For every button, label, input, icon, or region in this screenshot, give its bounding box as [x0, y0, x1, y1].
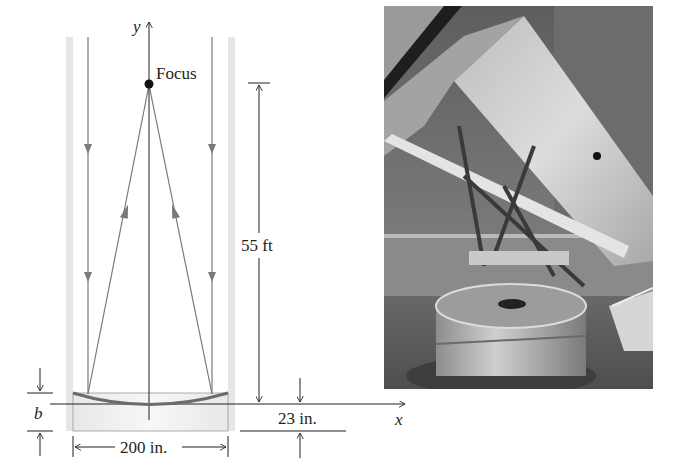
mirror-center-hole	[498, 299, 526, 309]
reflected-rays	[88, 85, 212, 394]
depth-label: b	[34, 404, 43, 423]
focal-length-label: 55 ft	[241, 236, 273, 255]
focus-point	[145, 80, 154, 89]
ray-arrowheads-down	[84, 144, 216, 282]
tube-wall-right	[228, 37, 235, 431]
tube-port	[593, 152, 601, 160]
yoke-ring	[469, 251, 569, 265]
y-axis-label: y	[131, 17, 141, 36]
telescope-photo	[384, 6, 653, 389]
tube-wall-left	[66, 37, 73, 431]
thickness-label: 23 in.	[278, 409, 317, 428]
ray-arrowheads-up	[120, 203, 180, 218]
diameter-label: 200 in.	[120, 438, 167, 457]
focus-label: Focus	[156, 64, 197, 83]
x-axis-label: x	[394, 410, 403, 429]
